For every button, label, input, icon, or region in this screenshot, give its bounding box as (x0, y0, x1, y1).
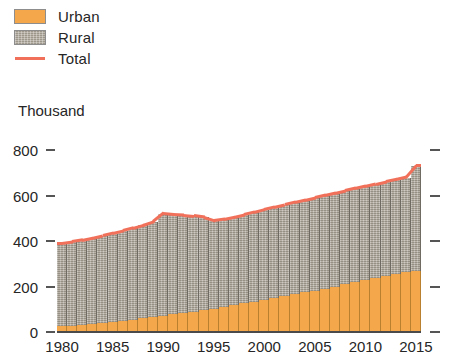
stacked-column (219, 219, 229, 332)
urban-segment (350, 282, 360, 332)
stacked-column (138, 225, 148, 332)
urban-segment (269, 298, 279, 332)
right-axis-tick-mark (430, 331, 440, 333)
rural-segment (148, 222, 158, 317)
rural-segment (77, 240, 87, 325)
y-axis-tick-label: 800 (13, 142, 38, 159)
stacked-column (158, 214, 168, 332)
stacked-column (168, 215, 178, 332)
rural-segment (118, 231, 128, 321)
y-axis-tick-mark (46, 195, 55, 197)
rural-segment (138, 225, 148, 318)
right-axis-tick-mark (430, 286, 440, 288)
stacked-column (209, 221, 219, 332)
stacked-column (188, 216, 198, 332)
stacked-column (249, 212, 259, 332)
rural-segment (300, 200, 310, 292)
stacked-column (118, 231, 128, 332)
stacked-column (381, 182, 391, 332)
rural-segment (259, 210, 269, 300)
stacked-column (391, 180, 401, 332)
urban-segment (300, 292, 310, 332)
rural-segment (381, 182, 391, 276)
urban-segment (229, 305, 239, 332)
x-axis-tick-label: 1995 (197, 338, 230, 355)
urban-segment (370, 278, 380, 332)
total-line-segment (57, 242, 62, 245)
urban-segment (199, 310, 209, 332)
urban-segment (320, 289, 330, 332)
urban-segment (360, 280, 370, 332)
y-axis-tick-mark (46, 240, 55, 242)
stacked-column (269, 207, 279, 332)
right-axis-tick-mark (430, 149, 440, 151)
stacked-column (87, 238, 97, 332)
urban-segment (239, 303, 249, 332)
urban-segment (249, 302, 259, 332)
stacked-column (310, 198, 320, 332)
rural-segment (360, 186, 370, 280)
urban-segment (158, 316, 168, 332)
y-axis: 0200400600800 (0, 0, 52, 363)
y-axis-tick-mark (46, 331, 55, 333)
rural-segment (168, 215, 178, 315)
urban-segment (209, 309, 219, 332)
stacked-column (370, 184, 380, 332)
urban-segment (178, 313, 188, 332)
rural-segment (229, 217, 239, 305)
rural-segment (87, 238, 97, 324)
stacked-column (239, 215, 249, 332)
legend-label-total: Total (58, 50, 91, 67)
urban-segment (168, 314, 178, 332)
stacked-column (330, 193, 340, 332)
rural-segment (391, 180, 401, 275)
rural-segment (290, 202, 300, 294)
y-axis-tick-label: 200 (13, 278, 38, 295)
y-axis-tick-mark (46, 149, 55, 151)
rural-segment (67, 242, 77, 326)
rural-segment (158, 214, 168, 316)
urban-segment (411, 271, 421, 332)
rural-segment (411, 166, 421, 271)
x-axis-tick-label: 2005 (298, 338, 331, 355)
stacked-column (300, 200, 310, 332)
x-axis-baseline (57, 331, 421, 333)
legend-label-rural: Rural (58, 29, 95, 46)
rural-segment (188, 216, 198, 312)
rural-segment (97, 236, 107, 323)
urban-segment (148, 317, 158, 332)
rural-segment (178, 215, 188, 313)
urban-segment (138, 318, 148, 332)
stacked-column (199, 217, 209, 332)
right-axis-tick-mark (430, 240, 440, 242)
urban-segment (381, 276, 391, 332)
x-axis-tick-label: 1990 (146, 338, 179, 355)
stacked-column (411, 166, 421, 332)
rural-segment (219, 219, 229, 307)
rural-segment (128, 228, 138, 319)
legend-label-urban: Urban (58, 8, 100, 25)
rural-segment (320, 196, 330, 289)
stacked-column (97, 236, 107, 332)
stacked-column (320, 196, 330, 333)
rural-segment (269, 207, 279, 298)
urban-segment (290, 294, 300, 332)
urban-segment (259, 300, 269, 332)
y-axis-tick-label: 400 (13, 233, 38, 250)
urban-segment (188, 312, 198, 332)
urban-segment (340, 284, 350, 332)
x-axis-tick-label: 2010 (349, 338, 382, 355)
stacked-column (128, 228, 138, 332)
stacked-column (67, 242, 77, 332)
population-stacked-area-chart: Urban Rural Total Thousand 0200400600800… (0, 0, 450, 363)
rural-segment (199, 217, 209, 310)
stacked-column (57, 243, 67, 332)
rural-segment (370, 184, 380, 278)
rural-segment (279, 205, 289, 296)
stacked-column (108, 234, 118, 333)
urban-segment (310, 291, 320, 332)
rural-segment (350, 189, 360, 283)
stacked-column (290, 202, 300, 332)
y-axis-tick-label: 0 (30, 324, 38, 341)
rural-segment (330, 193, 340, 286)
